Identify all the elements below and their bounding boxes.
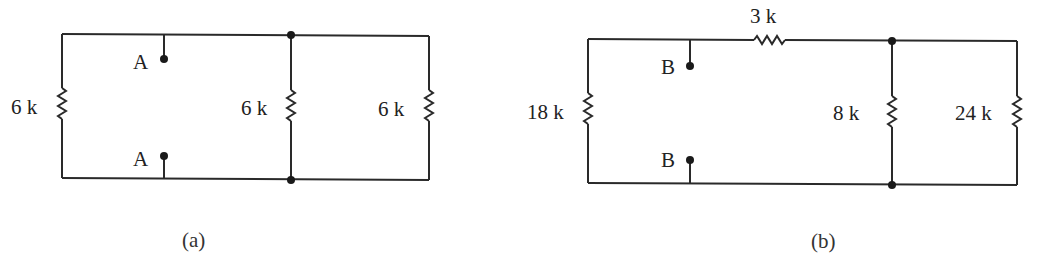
circuit-a-top-wire (62, 34, 429, 36)
circuit-a-terminal-top (160, 35, 168, 63)
terminal-dot-icon (160, 152, 168, 160)
terminal-dot-icon (686, 156, 694, 164)
circuit-b-right-branch (1013, 41, 1021, 185)
circuit-a-bottom-wire (62, 178, 429, 180)
terminal-label-b-top: B (661, 55, 675, 79)
circuit-b-bottom-wire (588, 183, 1017, 185)
terminal-dot-icon (160, 55, 168, 63)
junction-dot-icon (287, 176, 295, 184)
circuit-b: 3 k 18 k 8 k 24 k B B (b) (527, 4, 1021, 253)
circuit-a-terminal-bottom (160, 152, 168, 179)
resistor-label-b-left: 18 k (527, 100, 564, 124)
resistor-label-a-middle: 6 k (241, 96, 268, 120)
resistor-icon (1013, 96, 1021, 127)
resistor-label-a-left: 6 k (11, 95, 38, 119)
circuit-a-middle-branch (287, 31, 295, 184)
circuit-b-top-wire (588, 36, 1017, 44)
terminal-label-b-bottom: B (661, 148, 675, 172)
caption-a: (a) (182, 228, 205, 252)
resistor-label-a-right: 6 k (378, 97, 405, 121)
resistor-icon (58, 88, 66, 119)
circuit-a-right-branch (425, 36, 433, 180)
resistor-icon (754, 36, 785, 44)
resistor-icon (584, 93, 592, 124)
circuit-a-left-branch (58, 34, 66, 178)
junction-dot-icon (888, 37, 896, 45)
circuit-b-middle-branch (888, 37, 896, 189)
resistor-label-b-middle: 8 k (833, 101, 860, 125)
resistor-icon (888, 96, 896, 127)
circuit-b-terminal-bottom (686, 156, 694, 184)
resistor-label-b-top: 3 k (750, 4, 777, 28)
circuit-a: A A 6 k 6 k 6 k (a) (11, 31, 433, 252)
circuit-diagram: A A 6 k 6 k 6 k (a) (0, 0, 1052, 277)
circuit-b-terminal-top (686, 40, 694, 70)
terminal-label-a-top: A (133, 50, 149, 74)
junction-dot-icon (287, 31, 295, 39)
terminal-dot-icon (686, 62, 694, 70)
resistor-label-b-right: 24 k (955, 101, 992, 125)
junction-dot-icon (888, 181, 896, 189)
resistor-icon (287, 90, 295, 121)
terminal-label-a-bottom: A (133, 147, 149, 171)
resistor-icon (425, 90, 433, 121)
circuit-b-left-branch (584, 39, 592, 183)
caption-b: (b) (811, 229, 836, 253)
